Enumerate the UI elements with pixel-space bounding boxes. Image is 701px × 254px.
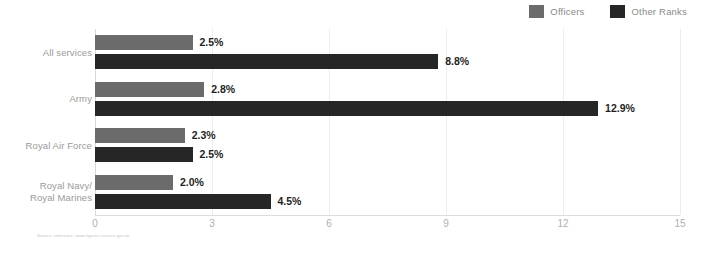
legend-label-other-ranks: Other Ranks xyxy=(631,5,687,18)
bar-group: 2.3%2.5% xyxy=(95,122,680,169)
category-label-line: Royal Navy/ xyxy=(4,180,92,192)
bar-row: 2.5% xyxy=(95,35,223,50)
x-tick-label-6: 6 xyxy=(326,218,332,229)
bar[interactable] xyxy=(95,54,438,69)
bar[interactable] xyxy=(95,194,271,209)
x-tick-label-12: 12 xyxy=(557,218,568,229)
bar-row: 12.9% xyxy=(95,101,635,116)
bar-value-label: 2.8% xyxy=(211,82,235,97)
bar-row: 2.0% xyxy=(95,175,204,190)
bar-value-label: 12.9% xyxy=(605,101,635,116)
bar-chart: Officers Other Ranks All servicesArmyRoy… xyxy=(0,0,701,254)
category-label: All services xyxy=(4,47,92,59)
bar-value-label: 2.5% xyxy=(200,35,224,50)
bar[interactable] xyxy=(95,147,193,162)
bar-group: 2.5%8.8% xyxy=(95,29,680,76)
legend-swatch-other-ranks xyxy=(610,5,625,18)
x-tick-label-9: 9 xyxy=(443,218,449,229)
legend-item-officers[interactable]: Officers xyxy=(529,5,584,18)
legend-item-other-ranks[interactable]: Other Ranks xyxy=(610,5,687,18)
bar-row: 4.5% xyxy=(95,194,301,209)
bar[interactable] xyxy=(95,175,173,190)
category-label-line: Royal Air Force xyxy=(4,140,92,152)
category-axis: All servicesArmyRoyal Air ForceRoyal Nav… xyxy=(0,29,92,215)
bar-row: 2.8% xyxy=(95,82,235,97)
bar[interactable] xyxy=(95,101,598,116)
bar-row: 8.8% xyxy=(95,54,469,69)
category-label-line: Royal Marines xyxy=(4,192,92,204)
category-label-line: All services xyxy=(4,47,92,59)
legend-label-officers: Officers xyxy=(550,5,584,18)
bar[interactable] xyxy=(95,82,204,97)
bar-row: 2.3% xyxy=(95,128,216,143)
bar-value-label: 2.0% xyxy=(180,175,204,190)
bar[interactable] xyxy=(95,35,193,50)
bar-group: 2.8%12.9% xyxy=(95,76,680,123)
bar-value-label: 2.5% xyxy=(200,147,224,162)
bar-value-label: 2.3% xyxy=(192,128,216,143)
bar-value-label: 8.8% xyxy=(445,54,469,69)
bar-row: 2.5% xyxy=(95,147,223,162)
x-tick-label-3: 3 xyxy=(209,218,215,229)
chart-legend: Officers Other Ranks xyxy=(529,2,687,20)
x-tick-label-0: 0 xyxy=(92,218,98,229)
x-tick-label-15: 15 xyxy=(674,218,685,229)
category-label: Royal Air Force xyxy=(4,140,92,152)
plot-area: 2.5%8.8%2.8%12.9%2.3%2.5%2.0%4.5% xyxy=(95,29,680,215)
category-label: Royal Navy/Royal Marines xyxy=(4,180,92,203)
value-axis: 03691215 xyxy=(95,218,680,234)
bar-group: 2.0%4.5% xyxy=(95,169,680,216)
category-label-line: Army xyxy=(4,93,92,105)
x-axis-baseline xyxy=(95,215,680,216)
gridline-15 xyxy=(680,29,681,215)
legend-swatch-officers xyxy=(529,5,544,18)
bar-value-label: 4.5% xyxy=(278,194,302,209)
bar[interactable] xyxy=(95,128,185,143)
category-label: Army xyxy=(4,93,92,105)
source-note: Source: reference, www.figures.service.g… xyxy=(37,233,130,238)
